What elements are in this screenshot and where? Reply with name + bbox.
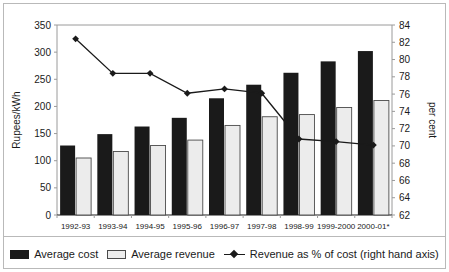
y-axis-tick-label: 50 (40, 182, 52, 193)
bar-average-cost-2000-01* (358, 51, 373, 215)
legend-item-revenue-percent[interactable]: Revenue as % of cost (right hand axis) (224, 248, 439, 260)
x-axis-tick-label: 1995-96 (173, 222, 203, 231)
legend-label-revenue-percent: Revenue as % of cost (right hand axis) (250, 248, 439, 260)
x-axis-tick-label: 2000-01* (357, 222, 389, 231)
y-axis-tick-label: 350 (34, 20, 51, 31)
chart-screenshot: 0501001502002503003506264666870727476788… (0, 0, 449, 272)
light-bar-swatch-icon (107, 250, 126, 259)
revenue-percent-marker-1996-97 (221, 86, 228, 93)
line-marker-swatch-icon (224, 250, 245, 259)
y-axis-tick-label: 0 (45, 210, 51, 221)
legend-label-average-revenue: Average revenue (131, 248, 215, 260)
x-axis-tick-label: 1999-2000 (317, 222, 356, 231)
revenue-percent-marker-1994-95 (147, 70, 154, 77)
x-axis-tick-label: 1992-93 (61, 222, 91, 231)
y-axis-tick-label: 250 (34, 74, 51, 85)
bar-average-revenue-1996-97 (225, 125, 240, 215)
bar-average-cost-1999-2000 (321, 61, 336, 215)
y2-axis-title: per cent (427, 102, 438, 138)
chart-legend: Average cost Average revenue Revenue as … (4, 240, 445, 268)
bar-average-cost-1995-96 (172, 118, 187, 215)
chart-plot-area: 0501001502002503003506264666870727476788… (0, 0, 449, 272)
bar-average-revenue-2000-01* (374, 100, 389, 215)
y2-axis-tick-label: 70 (399, 140, 411, 151)
chart-canvas: 0501001502002503003506264666870727476788… (0, 0, 449, 272)
bar-average-revenue-1999-2000 (337, 108, 352, 215)
y2-axis-tick-label: 64 (399, 192, 411, 203)
bar-average-revenue-1992-93 (76, 158, 91, 215)
y2-axis-tick-label: 68 (399, 158, 411, 169)
bar-average-cost-1997-98 (246, 85, 261, 215)
bar-average-revenue-1995-96 (188, 140, 203, 215)
bar-average-revenue-1994-95 (151, 146, 166, 215)
y-axis-tick-label: 150 (34, 128, 51, 139)
bar-average-revenue-1993-94 (113, 151, 128, 215)
y-axis-tick-label: 100 (34, 155, 51, 166)
bar-average-cost-1998-99 (283, 73, 298, 215)
x-axis-tick-label: 1997-98 (247, 222, 277, 231)
bar-average-cost-1996-97 (209, 98, 224, 215)
y-axis-title: Rupees/kWh (11, 91, 22, 148)
bar-average-revenue-1997-98 (262, 117, 277, 215)
bar-average-cost-1994-95 (135, 127, 150, 215)
y2-axis-tick-label: 66 (399, 175, 411, 186)
legend-label-average-cost: Average cost (34, 248, 98, 260)
legend-item-average-cost[interactable]: Average cost (10, 248, 98, 260)
legend-divider (4, 236, 445, 237)
y2-axis-tick-label: 72 (399, 123, 411, 134)
y-axis-tick-label: 200 (34, 101, 51, 112)
bar-average-cost-1993-94 (97, 134, 112, 215)
y2-axis-tick-label: 76 (399, 89, 411, 100)
x-axis-tick-label: 1996-97 (210, 222, 240, 231)
x-axis-tick-label: 1994-95 (135, 222, 165, 231)
dark-bar-swatch-icon (10, 250, 29, 259)
y2-axis-tick-label: 84 (399, 20, 411, 31)
bar-average-cost-1992-93 (60, 146, 75, 215)
y2-axis-tick-label: 74 (399, 106, 411, 117)
y2-axis-tick-label: 80 (399, 54, 411, 65)
bar-average-revenue-1998-99 (299, 115, 314, 215)
x-axis-tick-label: 1993-94 (98, 222, 128, 231)
revenue-percent-marker-1995-96 (184, 90, 191, 97)
y-axis-tick-label: 300 (34, 47, 51, 58)
legend-item-average-revenue[interactable]: Average revenue (107, 248, 215, 260)
y2-axis-tick-label: 82 (399, 37, 411, 48)
y2-axis-tick-label: 78 (399, 71, 411, 82)
y2-axis-tick-label: 62 (399, 210, 411, 221)
x-axis-tick-label: 1998-99 (284, 222, 314, 231)
